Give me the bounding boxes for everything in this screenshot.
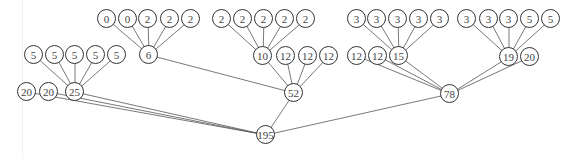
- tree-node: 3: [388, 9, 407, 28]
- node-label: 3: [354, 13, 360, 25]
- node-label: 2: [261, 13, 267, 25]
- tree-edge: [450, 57, 509, 94]
- tree-node: 20: [17, 82, 36, 101]
- tree-node: 20: [39, 82, 58, 101]
- tree-node: 2: [254, 9, 273, 28]
- node-label: 5: [31, 49, 37, 61]
- tree-node: 3: [347, 9, 366, 28]
- tree-node: 20: [520, 47, 539, 66]
- node-label: 2: [188, 13, 194, 25]
- tree-node: 2: [212, 9, 231, 28]
- tree-node: 3: [367, 9, 386, 28]
- tree-node: 12: [276, 46, 295, 65]
- tree-node: 5: [520, 9, 539, 28]
- tree-node: 12: [298, 46, 317, 65]
- node-label: 12: [351, 50, 362, 62]
- node-label: 2: [219, 13, 225, 25]
- tree-node: 3: [499, 9, 518, 28]
- tree-node: 5: [45, 45, 64, 64]
- node-label: 3: [506, 13, 512, 25]
- tree-node: 78: [440, 84, 459, 103]
- tree-node: 3: [479, 9, 498, 28]
- node-label: 0: [125, 13, 131, 25]
- tree-node: 6: [139, 45, 158, 64]
- tree-node: 2: [296, 9, 315, 28]
- tree-edge: [378, 56, 450, 94]
- node-label: 3: [395, 13, 401, 25]
- node-label: 3: [416, 13, 422, 25]
- tree-node: 2: [138, 9, 157, 28]
- node-label: 19: [503, 51, 514, 63]
- node-label: 12: [323, 50, 334, 62]
- tree-node: 2: [181, 9, 200, 28]
- node-label: 3: [374, 13, 380, 25]
- tree-edge: [75, 92, 266, 135]
- tree-node: 3: [430, 9, 449, 28]
- node-label: 3: [437, 13, 443, 25]
- node-label: 5: [527, 13, 533, 25]
- node-label: 2: [240, 13, 246, 25]
- tree-node: 12: [347, 46, 366, 65]
- tree-node: 5: [541, 9, 560, 28]
- tree-node: 52: [284, 83, 303, 102]
- node-label: 5: [93, 49, 99, 61]
- tree-node: 195: [256, 125, 275, 144]
- node-label: 3: [464, 13, 470, 25]
- node-label: 2: [282, 13, 288, 25]
- tree-node: 5: [107, 45, 126, 64]
- tree-node: 19: [499, 47, 518, 66]
- node-label: 20: [21, 86, 32, 98]
- node-label: 10: [257, 50, 268, 62]
- tree-node: 25: [65, 82, 84, 101]
- node-label: 6: [146, 49, 152, 61]
- tree-node: 3: [409, 9, 428, 28]
- node-label: 2: [303, 13, 309, 25]
- node-label: 25: [69, 86, 80, 98]
- node-label: 2: [167, 13, 173, 25]
- tree-node: 12: [319, 46, 338, 65]
- tree-edge: [49, 92, 266, 135]
- node-label: 20: [524, 51, 535, 63]
- tree-node: 5: [65, 45, 84, 64]
- node-label: 2: [145, 13, 151, 25]
- node-label: 12: [372, 50, 383, 62]
- node-label: 12: [280, 50, 291, 62]
- node-label: 3: [486, 13, 492, 25]
- tree-node: 3: [457, 9, 476, 28]
- node-label: 15: [393, 50, 404, 62]
- tree-edge: [149, 55, 294, 93]
- node-label: 5: [52, 49, 58, 61]
- node-label: 5: [548, 13, 554, 25]
- tree-node: 2: [275, 9, 294, 28]
- tree-node: 2: [160, 9, 179, 28]
- node-label: 0: [104, 13, 110, 25]
- tree-node: 2: [233, 9, 252, 28]
- tree-node: 10: [253, 46, 272, 65]
- tree-node: 5: [86, 45, 105, 64]
- tree-node: 5: [24, 45, 43, 64]
- node-label: 52: [288, 87, 299, 99]
- tree-node: 12: [368, 46, 387, 65]
- tree-diagram: 1952520205278555556002221012121222222121…: [0, 0, 576, 158]
- node-label: 78: [444, 88, 455, 100]
- node-label: 12: [302, 50, 313, 62]
- node-label: 5: [114, 49, 120, 61]
- tree-node: 0: [118, 9, 137, 28]
- tree-node: 15: [389, 46, 408, 65]
- node-label: 195: [257, 129, 274, 141]
- node-label: 20: [43, 86, 54, 98]
- tree-node: 0: [97, 9, 116, 28]
- tree-edge: [450, 57, 530, 94]
- tree-edge: [27, 92, 266, 135]
- node-label: 5: [72, 49, 78, 61]
